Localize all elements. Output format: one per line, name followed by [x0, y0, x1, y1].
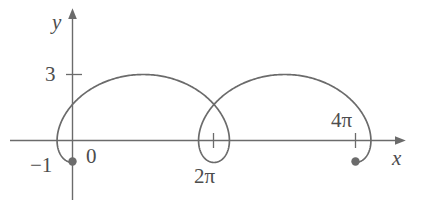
origin-label-0: 0 — [86, 146, 97, 167]
cycloid-figure: y x 3 0 −1 2π 4π — [0, 0, 428, 210]
x-tick-label-2pi: 2π — [194, 166, 215, 187]
y-tick-label-neg1: −1 — [30, 155, 52, 176]
y-tick-label-3: 3 — [45, 64, 56, 85]
x-axis-label: x — [392, 148, 401, 169]
cycloid-curve — [57, 75, 371, 163]
x-tick-label-4pi: 4π — [331, 110, 352, 131]
start-point-marker — [68, 157, 76, 165]
end-point-marker — [351, 157, 359, 165]
y-axis-label: y — [52, 12, 61, 33]
